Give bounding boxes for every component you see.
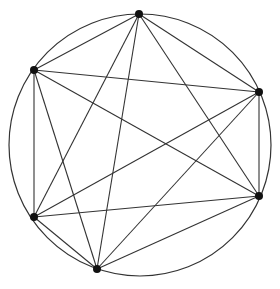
edge-A-B [34, 14, 139, 70]
node-C [255, 88, 263, 96]
edge-D-F [34, 196, 259, 217]
edge-A-C [139, 14, 259, 92]
edge-A-D [34, 14, 139, 217]
node-A [135, 10, 143, 18]
node-D [30, 213, 38, 221]
circumscribed-circle [9, 14, 271, 276]
edge-A-F [139, 14, 259, 196]
node-F [255, 192, 263, 200]
node-B [30, 66, 38, 74]
edge-E-F [97, 196, 259, 269]
graph-diagram [0, 0, 280, 289]
chord-edges [34, 14, 259, 269]
node-E [93, 265, 101, 273]
graph-nodes [30, 10, 263, 273]
edge-C-D [34, 92, 259, 217]
edge-D-E [34, 217, 97, 269]
